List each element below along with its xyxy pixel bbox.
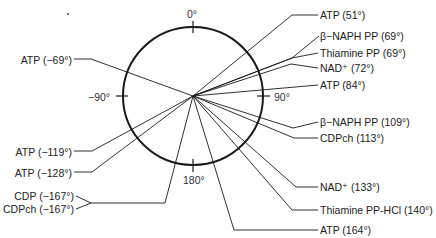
- leader-lines: [74, 15, 319, 230]
- entry-thiaminepphcl-140: Thiamine PP-HCl (140°): [320, 204, 433, 216]
- axis-label-minus-90: −90°: [88, 91, 110, 103]
- entry-nad-133: NAD⁺ (133°): [320, 181, 380, 193]
- entry-bnaphpp-69: β−NAPH PP (69°): [320, 30, 404, 42]
- entry-atp-minus-69: ATP (−69°): [21, 54, 72, 66]
- entry-atp-51: ATP (51°): [320, 9, 365, 21]
- axis-label-90: 90°: [274, 91, 290, 103]
- entry-nad-72: NAD⁺ (72°): [320, 62, 374, 74]
- entry-atp-minus-119: ATP (−119°): [16, 146, 72, 158]
- entry-atp-164: ATP (164°): [320, 224, 371, 236]
- axis-label-0: 0°: [187, 8, 197, 20]
- entry-cdpch-113: CDPch (113°): [320, 132, 384, 144]
- axis-label-180: 180°: [183, 174, 205, 186]
- entry-cdpch-minus-167: CDPch (−167°): [3, 203, 74, 215]
- polar-diagram: 0° 90° 180° −90° ATP (51°) β−NAPH PP (69…: [0, 0, 436, 238]
- entry-cdp-minus-167: CDP (−167°): [14, 190, 74, 202]
- entry-thiaminepp-69: Thiamine PP (69°): [320, 47, 406, 59]
- stray-dot: [67, 13, 69, 15]
- entry-atp-84: ATP (84°): [320, 79, 365, 91]
- entry-atp-minus-128: ATP (−128°): [15, 167, 72, 179]
- entry-bnaphpp-109: β−NAPH PP (109°): [320, 116, 410, 128]
